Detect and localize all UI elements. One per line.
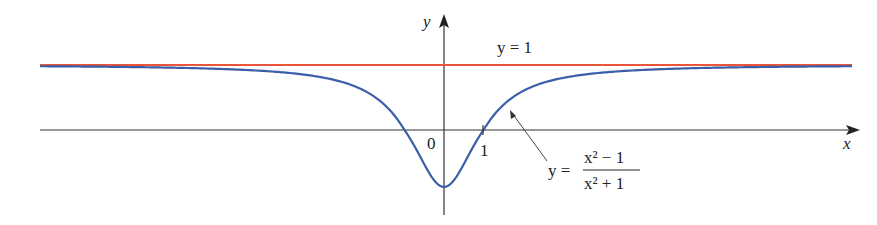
asymptote-label: y = 1 <box>497 38 532 57</box>
function-curve <box>40 66 852 187</box>
y-axis-label: y <box>421 12 431 31</box>
curve-label-denominator: x² + 1 <box>584 174 624 193</box>
chart: y x 0 1 y = 1 y = x² − 1 x² + 1 <box>0 0 877 225</box>
plot-area: y x 0 1 y = 1 y = x² − 1 x² + 1 <box>0 0 877 225</box>
x-axis-label: x <box>842 134 851 153</box>
curve-label-numerator: x² − 1 <box>584 148 624 167</box>
pointer-line <box>512 113 547 161</box>
x-tick-label-1: 1 <box>480 141 489 160</box>
origin-label: 0 <box>427 134 436 153</box>
curve-label-lhs: y = <box>548 161 570 180</box>
